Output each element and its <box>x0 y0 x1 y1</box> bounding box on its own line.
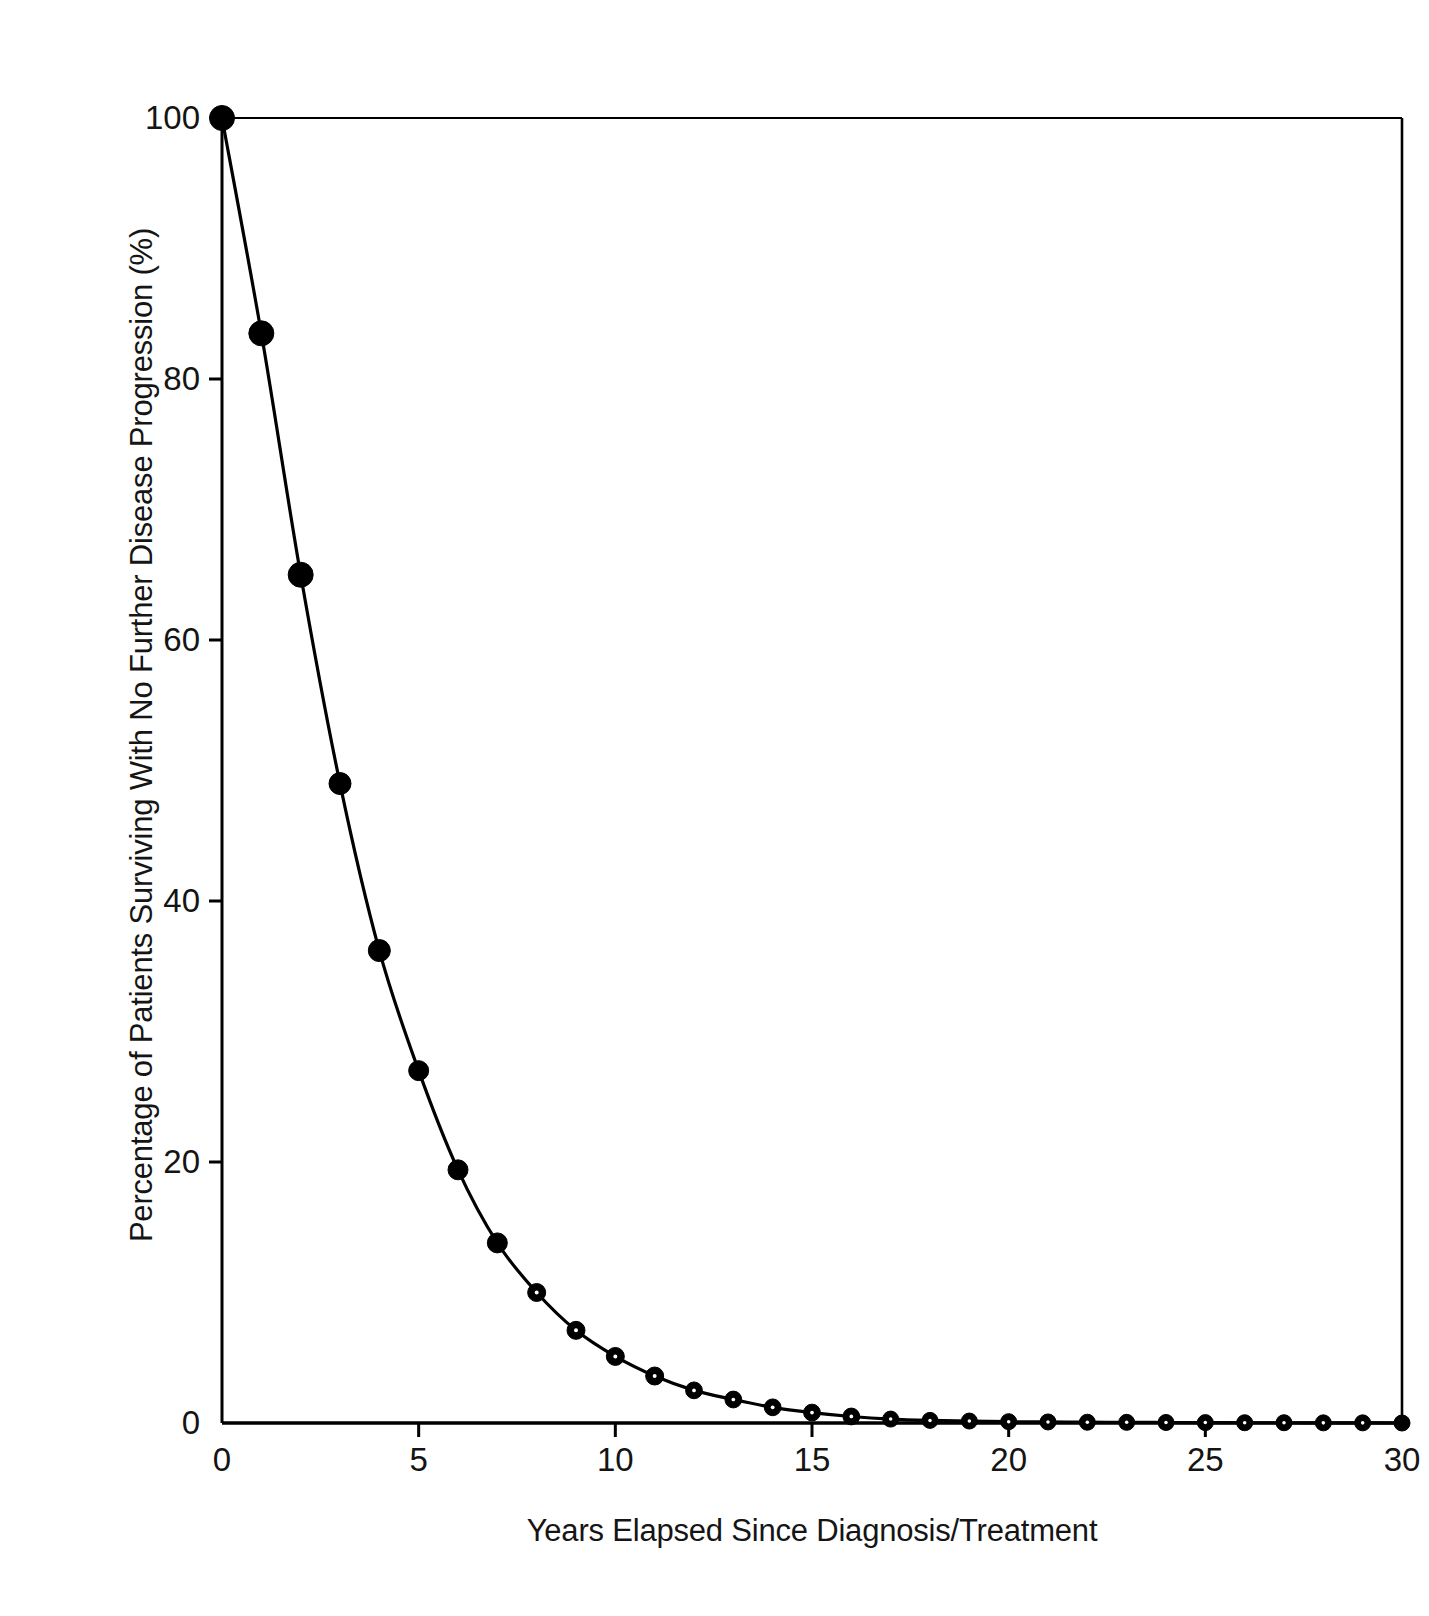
y-tick-label: 0 <box>80 1404 200 1442</box>
data-point-marker <box>249 321 274 346</box>
data-point-marker-center <box>1164 1421 1168 1425</box>
data-point-marker <box>368 940 390 962</box>
data-point-marker-center <box>1046 1420 1050 1424</box>
data-point-marker-center <box>1322 1421 1326 1425</box>
data-point-marker-center <box>574 1328 578 1332</box>
data-point-marker-center <box>849 1415 853 1419</box>
data-point-marker-center <box>692 1389 696 1393</box>
x-tick-label: 30 <box>1342 1441 1429 1479</box>
data-point-marker-center <box>968 1419 972 1423</box>
x-tick-label: 15 <box>752 1441 872 1479</box>
data-point-marker <box>329 773 351 795</box>
data-point-markers <box>210 106 1411 1432</box>
data-point-marker-center <box>1086 1420 1090 1424</box>
data-point-marker-center <box>653 1374 657 1378</box>
data-point-marker-center <box>1282 1421 1286 1425</box>
x-tick-label: 0 <box>162 1441 282 1479</box>
data-point-marker-center <box>928 1419 932 1423</box>
y-tick-label: 20 <box>80 1143 200 1181</box>
data-point-marker <box>409 1061 429 1081</box>
x-axis-tick-labels: 051015202530 <box>222 1441 1402 1491</box>
data-point-marker <box>448 1160 468 1180</box>
data-point-marker-center <box>1007 1420 1011 1424</box>
data-point-marker-center <box>889 1417 893 1421</box>
data-point-marker <box>210 106 235 131</box>
data-point-marker-center <box>1204 1421 1208 1425</box>
figure-canvas: Percentage of Patients Surviving With No… <box>0 0 1429 1616</box>
y-tick-label: 40 <box>80 882 200 920</box>
axis-ticks <box>209 379 1205 1437</box>
y-tick-label: 60 <box>80 621 200 659</box>
data-point-marker <box>487 1233 507 1253</box>
data-point-marker-center <box>731 1398 735 1402</box>
data-point-marker-center <box>613 1354 617 1358</box>
data-point-marker <box>288 562 313 587</box>
data-point-marker-center <box>1125 1421 1129 1425</box>
x-tick-label: 10 <box>555 1441 675 1479</box>
data-point-marker <box>1394 1415 1410 1431</box>
x-tick-label: 25 <box>1145 1441 1265 1479</box>
data-point-marker-center <box>810 1411 814 1415</box>
y-axis-tick-labels: 020406080100 <box>60 118 200 1423</box>
plot-area <box>222 118 1402 1423</box>
y-tick-label: 80 <box>80 360 200 398</box>
axis-frame <box>222 118 1402 1423</box>
x-tick-label: 20 <box>949 1441 1069 1479</box>
data-point-marker-center <box>1243 1421 1247 1425</box>
data-point-marker-center <box>1361 1421 1365 1425</box>
x-axis-title: Years Elapsed Since Diagnosis/Treatment <box>222 1513 1402 1549</box>
chart-svg <box>222 118 1402 1423</box>
data-point-marker-center <box>535 1291 539 1295</box>
x-tick-label: 5 <box>359 1441 479 1479</box>
y-tick-label: 100 <box>80 99 200 137</box>
data-point-marker-center <box>771 1405 775 1409</box>
data-series-line <box>222 118 1402 1423</box>
